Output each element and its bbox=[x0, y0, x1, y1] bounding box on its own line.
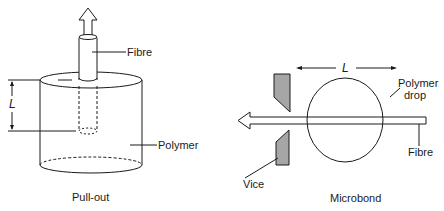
microbond-length-label: L bbox=[342, 61, 349, 75]
pullout-fibre-label: Fibre bbox=[127, 46, 152, 58]
drop-length-dimension: L bbox=[296, 61, 397, 75]
embedded-length-dimension: L bbox=[8, 80, 76, 131]
vice-upper-jaw bbox=[274, 74, 290, 112]
microbond-fibre-label: Fibre bbox=[408, 146, 433, 158]
pullout-length-label: L bbox=[9, 97, 16, 111]
pullout-caption: Pull-out bbox=[72, 191, 109, 203]
pull-direction-arrow-icon bbox=[79, 8, 97, 35]
pullout-polymer-label: Polymer bbox=[158, 139, 199, 151]
vice-lower-jaw bbox=[276, 130, 289, 165]
polymer-cylinder bbox=[40, 72, 142, 173]
pullout-diagram: L Fibre Polymer Pull-out bbox=[8, 8, 199, 203]
microbond-vice-label: Vice bbox=[243, 178, 264, 190]
diagram-canvas: L Fibre Polymer Pull-out L Polymer bbox=[0, 0, 444, 211]
microbond-diagram: L Polymer drop Fibre Vice Microbond bbox=[238, 61, 439, 204]
fibre-pull-arrow-icon bbox=[238, 112, 426, 129]
polymer-drop bbox=[307, 78, 383, 162]
microbond-drop-label-line1: Polymer bbox=[398, 77, 439, 89]
fibre-cylinder bbox=[79, 35, 97, 82]
embedded-fibre bbox=[79, 86, 97, 134]
microbond-drop-label-line2: drop bbox=[404, 89, 426, 101]
microbond-caption: Microbond bbox=[330, 192, 381, 204]
